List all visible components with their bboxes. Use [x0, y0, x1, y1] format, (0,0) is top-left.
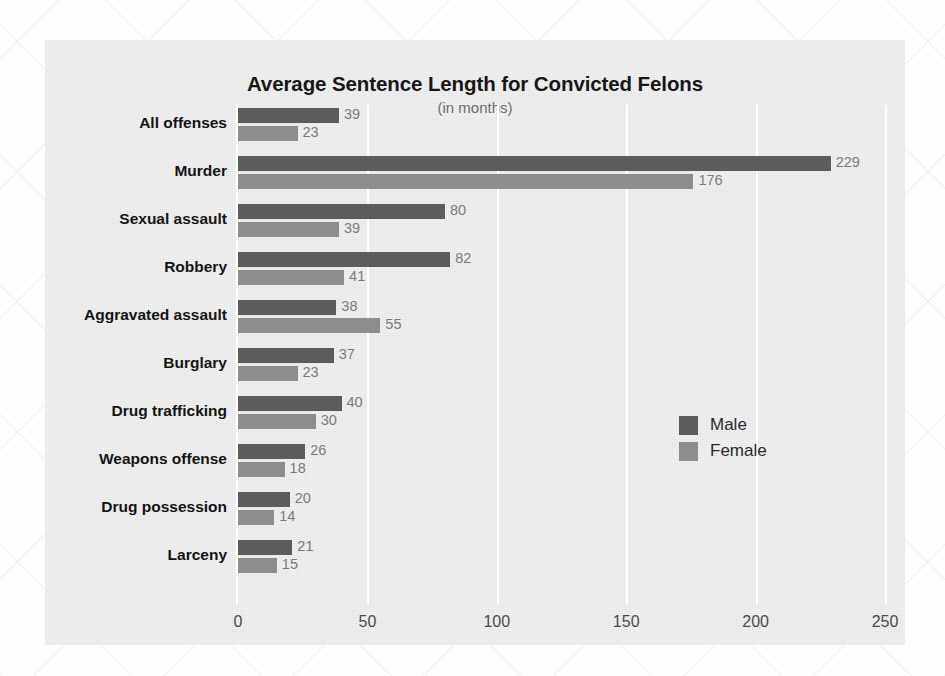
gridline-250	[885, 105, 887, 605]
bar-value-label: 82	[455, 250, 471, 266]
bar-value-label: 21	[297, 538, 313, 554]
bar-value-label: 30	[321, 412, 337, 428]
bar-male[interactable]	[238, 156, 831, 171]
bar-group: Robbery8241	[238, 249, 885, 297]
bar-value-label: 15	[282, 556, 298, 572]
bar-value-label: 26	[310, 442, 326, 458]
bar-female[interactable]	[238, 366, 298, 381]
bar-male[interactable]	[238, 348, 334, 363]
category-label: Drug trafficking	[112, 402, 227, 420]
bar-group: Murder229176	[238, 153, 885, 201]
chart-title: Average Sentence Length for Convicted Fe…	[45, 72, 905, 96]
bar-value-label: 40	[347, 394, 363, 410]
legend-item-male[interactable]: Male	[679, 412, 767, 438]
chart-page: Average Sentence Length for Convicted Fe…	[0, 0, 945, 676]
legend-label: Male	[710, 415, 747, 435]
bar-male[interactable]	[238, 444, 305, 459]
category-label: Robbery	[164, 258, 227, 276]
category-label: All offenses	[139, 114, 227, 132]
bar-group: Aggravated assault3855	[238, 297, 885, 345]
category-label: Weapons offense	[99, 450, 227, 468]
bar-group: All offenses3923	[238, 105, 885, 153]
category-label: Larceny	[168, 546, 227, 564]
x-tick-label-200: 200	[742, 613, 769, 631]
bar-group: Burglary3723	[238, 345, 885, 393]
legend: MaleFemale	[679, 412, 767, 464]
bar-value-label: 38	[341, 298, 357, 314]
bar-group: Drug trafficking4030	[238, 393, 885, 441]
bar-female[interactable]	[238, 174, 693, 189]
bar-female[interactable]	[238, 126, 298, 141]
bar-female[interactable]	[238, 270, 344, 285]
x-tick-label-0: 0	[234, 613, 243, 631]
bar-male[interactable]	[238, 300, 336, 315]
legend-swatch-male	[679, 416, 698, 435]
x-tick-label-50: 50	[358, 613, 376, 631]
bar-male[interactable]	[238, 540, 292, 555]
bar-female[interactable]	[238, 462, 285, 477]
bar-value-label: 41	[349, 268, 365, 284]
bar-value-label: 23	[303, 124, 319, 140]
bar-group: Weapons offense2618	[238, 441, 885, 489]
bar-group: Larceny2115	[238, 537, 885, 585]
x-tick-label-100: 100	[483, 613, 510, 631]
bar-female[interactable]	[238, 414, 316, 429]
plot-area: All offenses3923Murder229176Sexual assau…	[238, 105, 885, 605]
bar-value-label: 176	[698, 172, 722, 188]
bar-male[interactable]	[238, 204, 445, 219]
chart-panel: Average Sentence Length for Convicted Fe…	[45, 40, 905, 645]
bar-value-label: 55	[385, 316, 401, 332]
bar-female[interactable]	[238, 222, 339, 237]
bar-value-label: 229	[836, 154, 860, 170]
category-label: Burglary	[163, 354, 227, 372]
bar-value-label: 80	[450, 202, 466, 218]
bar-value-label: 23	[303, 364, 319, 380]
bar-male[interactable]	[238, 108, 339, 123]
bar-value-label: 37	[339, 346, 355, 362]
bar-group: Sexual assault8039	[238, 201, 885, 249]
bar-group: Drug possession2014	[238, 489, 885, 537]
category-label: Sexual assault	[119, 210, 227, 228]
category-label: Drug possession	[101, 498, 227, 516]
bar-value-label: 39	[344, 106, 360, 122]
legend-label: Female	[710, 441, 767, 461]
category-label: Aggravated assault	[84, 306, 227, 324]
bar-male[interactable]	[238, 492, 290, 507]
bar-value-label: 39	[344, 220, 360, 236]
bar-value-label: 14	[279, 508, 295, 524]
x-tick-label-150: 150	[613, 613, 640, 631]
legend-swatch-female	[679, 442, 698, 461]
bar-male[interactable]	[238, 396, 342, 411]
x-tick-label-250: 250	[872, 613, 899, 631]
bar-value-label: 18	[290, 460, 306, 476]
bar-female[interactable]	[238, 318, 380, 333]
category-label: Murder	[174, 162, 227, 180]
bar-male[interactable]	[238, 252, 450, 267]
bar-female[interactable]	[238, 510, 274, 525]
legend-item-female[interactable]: Female	[679, 438, 767, 464]
bar-value-label: 20	[295, 490, 311, 506]
bar-female[interactable]	[238, 558, 277, 573]
